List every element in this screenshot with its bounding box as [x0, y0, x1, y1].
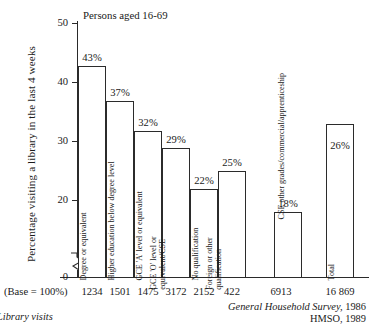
- source-publisher: HMSO, 1989: [310, 313, 366, 324]
- base-value-3: 1475: [134, 286, 162, 297]
- y-tick-label-40: 40: [44, 76, 68, 87]
- figure-caption: Library visits: [0, 311, 53, 322]
- bar-category-total: Total: [327, 264, 336, 281]
- chart-title: Persons aged 16-69: [83, 9, 168, 21]
- bar-value-gce-a-level-or-equivalent: 32%: [134, 117, 162, 128]
- source-survey-year: 1986: [343, 301, 366, 312]
- source-survey: General Household Survey, 1986: [228, 301, 366, 312]
- base-value-1: 1234: [78, 286, 106, 297]
- bar-category-degree-or-equivalent: Degree or equivalent: [79, 213, 88, 281]
- y-tick-label-50: 50: [44, 17, 68, 28]
- library-visits-bar-chart: Percentage visiting a library in the las…: [0, 0, 369, 326]
- bar-value-higher-education-below-degree-level: 37%: [106, 87, 134, 98]
- base-value-2: 1501: [106, 286, 134, 297]
- bar-category-higher-education-below-degree-level: Higher education below degree level: [107, 161, 116, 280]
- base-value-8: 16 869: [318, 286, 362, 297]
- base-value-6: 422: [218, 286, 246, 297]
- y-tick-50: [72, 23, 78, 24]
- bar-category-no-qualification: No qualification: [191, 228, 200, 281]
- source-survey-name: General Household Survey,: [228, 301, 343, 312]
- bar-cse-other-grades-commercial-apprenticeship: [274, 212, 302, 278]
- base-value-4: 3172: [162, 286, 190, 297]
- bar-value-no-qualification: 22%: [190, 175, 218, 186]
- bar-category-foreign-or-other-qualification: Foreign or other qualification: [205, 237, 224, 290]
- bar-category-gce-o-level-or-equivalent-cse: GCE 'O' level or equivalent/CSE: [149, 236, 168, 290]
- y-tick-label-30: 30: [44, 135, 68, 146]
- y-tick-label-20: 20: [44, 194, 68, 205]
- bar-category-cse-other-grades-commercial-apprenticeship: CSE other grades/commercial/apprenticesh…: [277, 73, 286, 220]
- bar-value-foreign-or-other-qualification: 25%: [218, 157, 246, 168]
- base-value-7: 6913: [260, 286, 302, 297]
- y-tick-label-0: 0: [44, 271, 68, 282]
- bar-value-degree-or-equivalent: 43%: [78, 52, 106, 63]
- bar-value-gce-o-level-or-equivalent-cse: 29%: [162, 134, 190, 145]
- y-axis-label: Percentage visiting a library in the las…: [25, 29, 37, 279]
- base-value-5: 2152: [190, 286, 218, 297]
- base-row-label: (Base = 100%): [4, 286, 68, 297]
- bar-value-total: 26%: [326, 140, 354, 151]
- bar-category-gce-a-level-or-equivalent: GCE 'A' level or equivalent: [135, 191, 144, 280]
